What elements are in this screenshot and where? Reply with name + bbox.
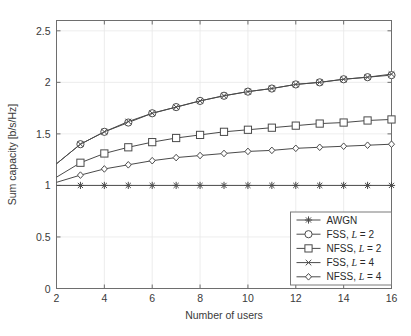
y-tick-label: 2.5	[36, 25, 51, 37]
data-point-marker	[149, 139, 156, 146]
x-tick-label: 10	[242, 292, 254, 304]
data-point-marker	[245, 148, 251, 155]
data-point-marker	[388, 72, 395, 79]
line-chart: 00.511.522.5246810121416Number of usersS…	[0, 0, 411, 336]
x-tick-label: 16	[386, 292, 398, 304]
data-point-marker	[221, 150, 227, 157]
y-tick-label: 2	[45, 76, 51, 88]
data-point-marker	[101, 150, 108, 157]
data-point-marker	[388, 116, 395, 123]
legend-label: FSS, L = 2	[327, 229, 375, 240]
y-tick-label: 0.5	[36, 231, 51, 243]
legend-label: NFSS, L = 4	[327, 271, 382, 282]
data-point-marker	[317, 144, 323, 151]
x-tick-label: 12	[290, 292, 302, 304]
data-point-marker	[149, 157, 155, 164]
x-tick-label: 14	[338, 292, 350, 304]
data-point-marker	[341, 143, 347, 150]
x-tick-label: 8	[197, 292, 203, 304]
chart-legend: AWGNFSS, L = 2NFSS, L = 2FSS, L = 4NFSS,…	[291, 212, 392, 285]
legend-sample-marker	[305, 231, 312, 238]
data-point-marker	[293, 145, 299, 152]
legend-label: AWGN	[327, 215, 358, 226]
data-point-marker	[269, 147, 275, 154]
data-point-marker	[77, 159, 84, 166]
y-tick-label: 1	[45, 179, 51, 191]
data-point-marker	[101, 166, 107, 173]
x-tick-label: 2	[54, 292, 60, 304]
y-axis-title: Sum capacity [b/s/Hz]	[6, 104, 18, 206]
legend-label: FSS, L = 4	[327, 257, 375, 268]
data-point-marker	[364, 117, 371, 124]
x-axis-title: Number of users	[185, 309, 263, 321]
chart-figure: 00.511.522.5246810121416Number of usersS…	[0, 0, 411, 336]
data-point-marker	[389, 141, 395, 148]
legend-label: NFSS, L = 2	[327, 243, 382, 254]
data-point-marker	[173, 154, 179, 161]
data-point-marker	[77, 172, 83, 179]
series-awgn	[57, 182, 396, 189]
data-point-marker	[316, 120, 323, 127]
data-point-marker	[244, 126, 251, 133]
legend-sample-marker	[305, 245, 312, 252]
y-tick-label: 0	[45, 283, 51, 295]
x-tick-label: 4	[101, 292, 107, 304]
data-point-marker	[173, 134, 180, 141]
data-point-marker	[125, 162, 131, 169]
data-point-marker	[365, 142, 371, 149]
data-point-marker	[125, 144, 132, 151]
data-point-marker	[220, 128, 227, 135]
x-tick-label: 6	[149, 292, 155, 304]
data-point-marker	[340, 119, 347, 126]
y-tick-label: 1.5	[36, 128, 51, 140]
data-point-marker	[292, 122, 299, 129]
data-point-marker	[196, 131, 203, 138]
data-point-marker	[197, 152, 203, 159]
data-point-marker	[268, 124, 275, 131]
